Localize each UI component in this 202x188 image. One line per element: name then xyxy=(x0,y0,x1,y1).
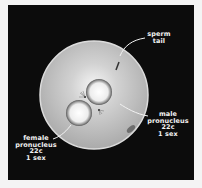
female-pronucleus xyxy=(66,100,92,126)
male-pronucleus-label: male pronucleus 22c 1 sex xyxy=(146,111,190,137)
sperm-tail-label: sperm tail xyxy=(142,31,176,44)
female-pronucleus-label: female pronucleus 22c 1 sex xyxy=(14,135,58,161)
male-pronucleus xyxy=(86,79,112,105)
